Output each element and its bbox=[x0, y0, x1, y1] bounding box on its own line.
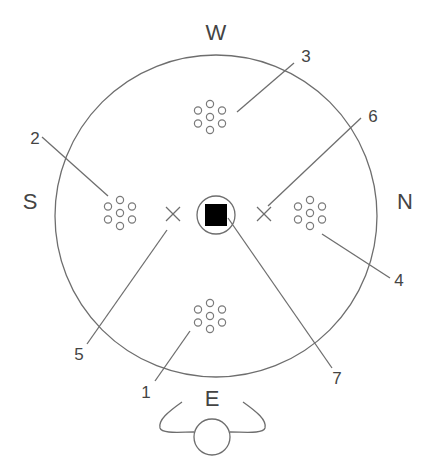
direction-label-east: E bbox=[205, 386, 220, 411]
dot-cluster-north bbox=[294, 196, 325, 229]
direction-label-south: S bbox=[23, 189, 38, 214]
dot-cluster-east bbox=[194, 299, 225, 332]
callout-number-7: 7 bbox=[332, 369, 341, 388]
leader-line-2 bbox=[42, 137, 108, 196]
leader-line-7 bbox=[228, 218, 332, 368]
viewer-left-arm bbox=[160, 402, 194, 432]
direction-label-west: W bbox=[206, 20, 227, 45]
callout-number-2: 2 bbox=[30, 129, 39, 148]
viewer-right-arm bbox=[230, 402, 265, 432]
callout-number-3: 3 bbox=[301, 47, 310, 66]
leader-line-5 bbox=[87, 230, 167, 344]
dot-cluster-south bbox=[104, 196, 135, 229]
cross-marker-north bbox=[257, 207, 271, 221]
callout-number-6: 6 bbox=[368, 107, 377, 126]
direction-label-north: N bbox=[397, 189, 413, 214]
dot-cluster-west bbox=[194, 100, 225, 133]
leader-line-6 bbox=[268, 118, 361, 206]
leader-line-4 bbox=[322, 234, 390, 278]
leader-line-3 bbox=[237, 63, 294, 112]
callout-number-4: 4 bbox=[394, 271, 403, 290]
callout-number-5: 5 bbox=[74, 345, 83, 364]
viewer-head bbox=[194, 419, 230, 455]
center-square bbox=[205, 204, 227, 226]
compass-diagram: W S N E bbox=[0, 0, 435, 471]
callout-number-1: 1 bbox=[141, 383, 150, 402]
cross-marker-south bbox=[166, 207, 180, 221]
